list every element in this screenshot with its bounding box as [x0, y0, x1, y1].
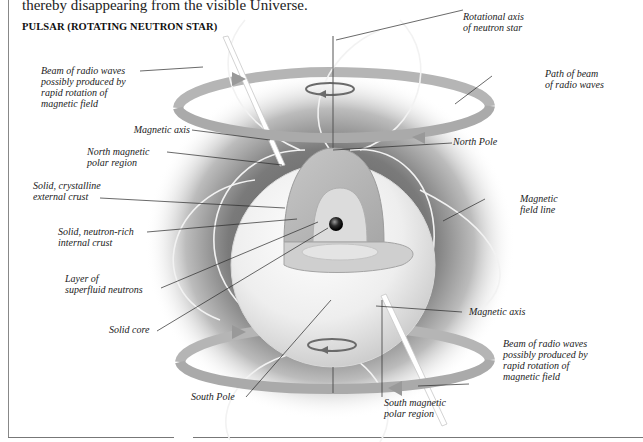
- label-north-pole: North Pole: [453, 136, 497, 147]
- label-external-crust: Solid, crystalline external crust: [33, 180, 101, 202]
- label-rotational-axis: Rotational axis of neutron star: [463, 11, 524, 33]
- label-internal-crust: Solid, neutron-rich internal crust: [58, 226, 134, 248]
- solid-core: [329, 217, 343, 231]
- label-beam-of-radio-waves-top: Beam of radio waves possibly produced by…: [41, 65, 126, 109]
- label-magnetic-field-line: Magnetic field line: [520, 193, 558, 215]
- label-superfluid-layer: Layer of superfluid neutrons: [65, 273, 143, 295]
- label-magnetic-axis-bottom: Magnetic axis: [469, 306, 525, 317]
- label-south-magnetic-polar-region: South magnetic polar region: [384, 397, 446, 419]
- label-magnetic-axis-top: Magnetic axis: [100, 124, 190, 135]
- superfluid-layer: [302, 244, 378, 260]
- label-beam-of-radio-waves-bottom: Beam of radio waves possibly produced by…: [503, 338, 588, 382]
- label-path-of-beam: Path of beam of radio waves: [545, 68, 604, 90]
- label-solid-core: Solid core: [109, 324, 149, 335]
- label-north-magnetic-polar-region: North magnetic polar region: [87, 146, 150, 168]
- label-south-pole: South Pole: [191, 391, 235, 402]
